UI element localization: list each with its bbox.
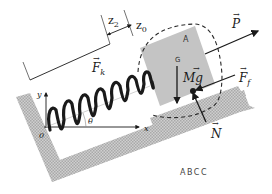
fk-label: Fk: [91, 61, 105, 77]
spring: [49, 72, 154, 130]
force-mg-vector-arrow: →: [193, 64, 200, 73]
fk-vector-arrow: →: [93, 54, 100, 63]
y-axis-label: y: [36, 90, 42, 99]
physics-diagram: z2 z0 A G x y 0 θ Fk → P → Ff → N → Mg →: [0, 0, 272, 194]
force-p-label: P: [231, 17, 241, 31]
z0-label: z0: [136, 19, 147, 34]
angle-label: θ: [88, 117, 93, 126]
origin-label: 0: [39, 131, 44, 140]
block-label: A: [183, 35, 189, 44]
force-mg-label: Mg: [182, 71, 203, 85]
force-ff-label: Ff: [238, 71, 252, 87]
force-ff-vector-arrow: →: [240, 64, 247, 73]
force-p-arrow: [205, 31, 258, 54]
force-p-vector-arrow: →: [233, 10, 240, 19]
figure-caption: ABCC: [180, 168, 208, 177]
x-axis-label: x: [144, 124, 149, 133]
angle-arc: [83, 113, 86, 127]
force-n-vector-arrow: →: [212, 119, 219, 128]
force-n-label: N: [210, 127, 222, 141]
center-of-mass-label: G: [175, 56, 180, 64]
z2-label: z2: [108, 14, 119, 29]
